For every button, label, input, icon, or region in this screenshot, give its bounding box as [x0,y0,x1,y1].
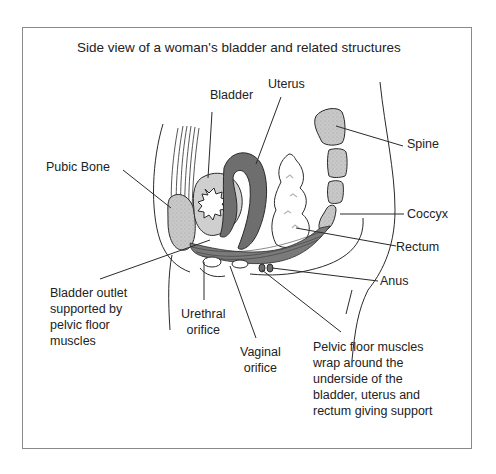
label-uterus: Uterus [268,76,305,92]
label-anus: Anus [380,273,409,289]
label-urethral-orifice: Urethral orifice [181,306,225,338]
label-pubic-bone: Pubic Bone [46,159,110,175]
label-rectum: Rectum [396,239,439,255]
label-pelvic-floor: Pelvic floor muscles wrap around the und… [313,339,433,419]
label-bladder: Bladder [210,87,253,103]
spine-vertebrae [315,109,347,231]
uterus-shape [220,153,267,249]
pubic-bone-shape [168,194,195,250]
label-coccyx: Coccyx [407,206,448,222]
label-vaginal-orifice: Vaginal orifice [240,344,281,376]
rectum-shape [272,154,309,247]
label-spine: Spine [407,136,439,152]
label-bladder-outlet: Bladder outlet supported by pelvic floor… [50,285,127,349]
